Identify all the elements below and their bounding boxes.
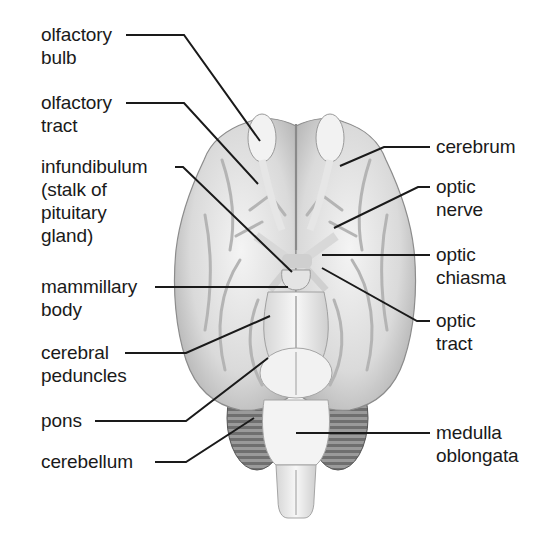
label-cerebral-peduncles: cerebral peduncles <box>41 341 127 387</box>
olfactory-bulb-right <box>316 114 344 162</box>
label-olfactory-tract: olfactory tract <box>41 91 112 137</box>
label-mammillary-body: mammillary body <box>41 275 137 321</box>
olfactory-bulb-left <box>248 114 276 162</box>
label-cerebellum: cerebellum <box>41 450 133 473</box>
label-infundibulum: infundibulum (stalk of pituitary gland) <box>41 155 148 247</box>
label-optic-tract: optic tract <box>436 309 476 355</box>
label-medulla-oblongata: medulla oblongata <box>436 421 519 467</box>
label-pons: pons <box>41 409 82 432</box>
label-optic-nerve: optic nerve <box>436 175 483 221</box>
label-optic-chiasma: optic chiasma <box>436 243 506 289</box>
brain-diagram: olfactory bulb olfactory tract infundibu… <box>0 0 556 535</box>
label-olfactory-bulb: olfactory bulb <box>41 23 112 69</box>
label-cerebrum: cerebrum <box>436 135 515 158</box>
